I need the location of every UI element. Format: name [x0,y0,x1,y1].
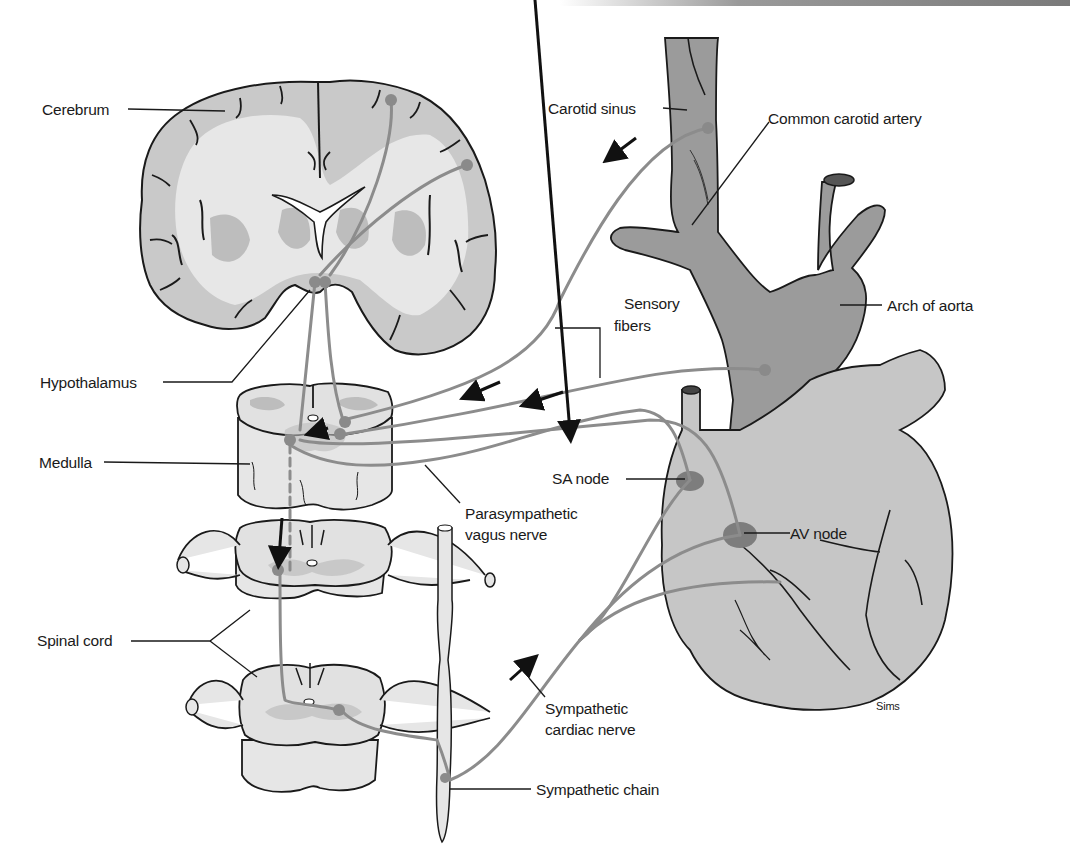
vagus-arrow [535,0,570,432]
label-sympathetic-cardiac-2: cardiac nerve [545,720,635,739]
label-carotid-sinus: Carotid sinus [548,99,636,118]
label-spinal-cord: Spinal cord [37,631,112,650]
sympathetic-arrow [510,662,530,680]
carotid-sensory-arrow [612,138,636,156]
sensory-arrow-1 [470,382,500,395]
medulla-drawing [237,384,392,510]
label-sa-node: SA node [552,469,609,488]
label-sensory-fibers-1: Sensory [624,294,679,313]
label-av-node: AV node [790,524,847,543]
illustration [0,0,1070,865]
label-arch-of-aorta: Arch of aorta [887,296,973,315]
label-cerebrum: Cerebrum [42,100,109,119]
label-parasympathetic-2: vagus nerve [465,525,547,544]
label-sympathetic-chain: Sympathetic chain [536,780,659,799]
label-hypothalamus: Hypothalamus [40,373,137,392]
label-parasympathetic-1: Parasympathetic [465,504,577,523]
label-common-carotid-artery: Common carotid artery [768,109,921,128]
label-medulla: Medulla [39,453,92,472]
diagram-canvas: Cerebrum Carotid sinus Common carotid ar… [0,0,1070,865]
label-sensory-fibers-2: fibers [614,316,651,335]
sympathetic-chain-drawing [437,525,453,842]
cerebrum-drawing [140,81,496,355]
artist-signature: Sims [876,697,900,716]
label-sympathetic-cardiac-1: Sympathetic [545,699,628,718]
